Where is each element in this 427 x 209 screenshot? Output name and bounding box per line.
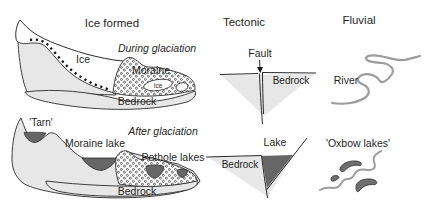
- ice-label: Ice: [76, 53, 90, 65]
- fluvial-during-figure: River: [332, 55, 420, 103]
- lake-formation-diagram: During glaciation Ice Moraine Bedrock Ic…: [0, 0, 427, 209]
- pothole-lakes-label: Pothole lakes: [141, 151, 204, 163]
- after-glaciation-caption: After glaciation: [127, 125, 198, 137]
- glacier-left-edge: [16, 20, 20, 42]
- tectonic-bedrock-label-top: Bedrock: [273, 75, 311, 86]
- lake-label: Lake: [264, 136, 287, 148]
- diagram-svg: During glaciation Ice Moraine Bedrock Ic…: [0, 0, 427, 209]
- oxbow-lakes-label: 'Oxbow lakes': [326, 137, 390, 149]
- oxbow-lake-2: [331, 175, 339, 181]
- oxbow-lake-3: [356, 179, 377, 192]
- column-title-ice-formed: Ice formed: [85, 17, 139, 29]
- fluvial-after-figure: 'Oxbow lakes': [320, 137, 390, 192]
- tarn-label: 'Tarn': [29, 117, 52, 128]
- column-title-fluvial: Fluvial: [342, 14, 375, 26]
- tectonic-bedrock-label-bottom: Bedrock: [222, 159, 260, 170]
- ice-formed-during-figure: During glaciation Ice Moraine Bedrock Ic…: [16, 20, 197, 109]
- fault-label: Fault: [248, 47, 271, 59]
- buried-ice-label: Ice: [154, 82, 163, 89]
- moraine-label: Moraine: [132, 64, 170, 76]
- tectonic-after-figure: Lake Bedrock: [206, 136, 307, 198]
- ice-formed-after-figure: 'Tarn' After glaciation Moraine lake Pot…: [12, 117, 205, 198]
- ground-line-right: [262, 73, 316, 74]
- rift-lake-shape: [262, 155, 294, 188]
- bedrock-label-top: Bedrock: [118, 95, 157, 107]
- moraine-lake-label: Moraine lake: [65, 137, 125, 149]
- fault-arrow-line: [260, 60, 261, 68]
- ground-line-left: [220, 74, 258, 75]
- column-title-tectonic: Tectonic: [223, 16, 265, 28]
- bedrock-label-bottom: Bedrock: [118, 185, 157, 197]
- river-label: River: [334, 74, 359, 86]
- tectonic-during-figure: Fault Bedrock: [220, 47, 316, 124]
- during-glaciation-caption: During glaciation: [118, 42, 196, 54]
